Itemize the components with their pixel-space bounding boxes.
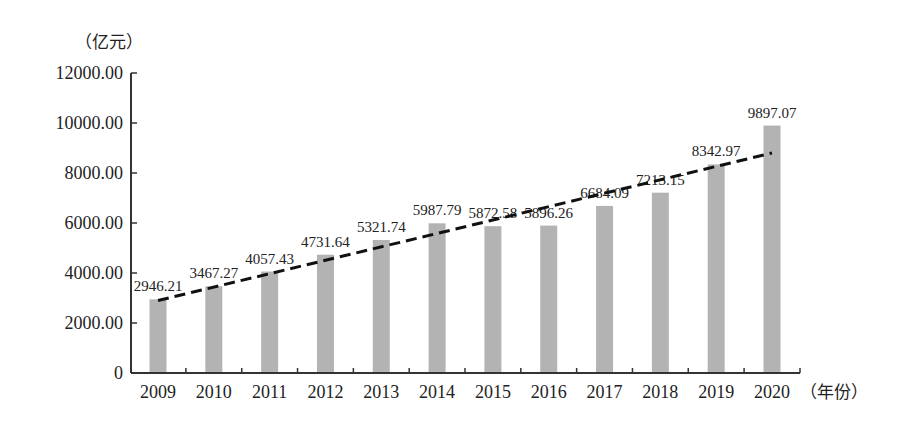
value-label: 5896.26 — [524, 205, 573, 221]
x-tick-label: 2015 — [475, 382, 511, 402]
x-tick-label: 2013 — [363, 382, 399, 402]
x-tick-label: 2017 — [587, 382, 623, 402]
value-label: 4731.64 — [301, 234, 350, 250]
value-label: 5321.74 — [357, 219, 406, 235]
y-tick-label: 6000.00 — [65, 213, 124, 233]
y-tick-label: 8000.00 — [65, 163, 124, 183]
value-labels: 2946.213467.274057.434731.645321.745987.… — [134, 105, 797, 295]
x-axis: 2009201020112012201320142015201620172018… — [131, 368, 800, 402]
trend-line — [158, 153, 772, 301]
y-tick-label: 12000.00 — [56, 63, 124, 83]
bar-2014 — [429, 223, 446, 373]
x-tick-label: 2009 — [140, 382, 176, 402]
bar-2010 — [205, 286, 222, 373]
x-tick-label: 2018 — [642, 382, 678, 402]
value-label: 4057.43 — [245, 251, 294, 267]
value-label: 8342.97 — [692, 143, 741, 159]
bar-2013 — [373, 240, 390, 373]
bar-2012 — [317, 255, 334, 373]
bar-2009 — [150, 299, 167, 373]
bar-series — [150, 126, 781, 373]
x-tick-label: 2019 — [698, 382, 734, 402]
bar-2016 — [540, 226, 557, 373]
bar-2015 — [484, 226, 501, 373]
y-tick-label: 0 — [114, 363, 123, 383]
bar-2019 — [708, 164, 725, 373]
value-label: 9897.07 — [748, 105, 797, 121]
bar-2020 — [764, 126, 781, 373]
bar-2018 — [652, 193, 669, 373]
y-tick-label: 2000.00 — [65, 313, 124, 333]
y-tick-label: 4000.00 — [65, 263, 124, 283]
bar-2011 — [261, 272, 278, 373]
y-axis-unit-label: （亿元） — [75, 32, 143, 52]
bar-2017 — [596, 206, 613, 373]
x-axis-unit-label: （年份） — [800, 382, 868, 402]
x-tick-label: 2014 — [419, 382, 455, 402]
value-label: 2946.21 — [134, 278, 183, 294]
x-tick-label: 2010 — [196, 382, 232, 402]
x-tick-label: 2016 — [531, 382, 567, 402]
value-label: 3467.27 — [189, 265, 238, 281]
x-tick-label: 2020 — [754, 382, 790, 402]
x-tick-label: 2011 — [252, 382, 287, 402]
y-axis: 02000.004000.006000.008000.0010000.00120… — [56, 63, 138, 383]
y-tick-label: 10000.00 — [56, 113, 124, 133]
bar-chart: （亿元） 02000.004000.006000.008000.0010000.… — [0, 0, 913, 424]
value-label: 5987.79 — [413, 202, 462, 218]
x-tick-label: 2012 — [307, 382, 343, 402]
